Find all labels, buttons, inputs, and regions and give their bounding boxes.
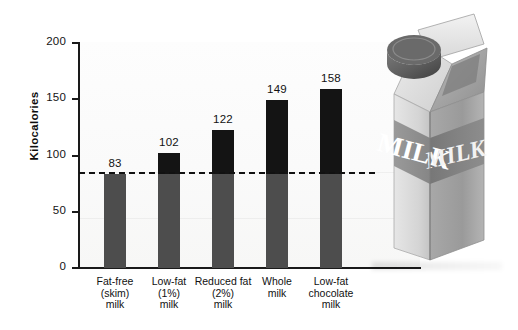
bar-segment-below-reference xyxy=(266,174,288,268)
y-tick-0 xyxy=(72,267,79,269)
bar-segment-below-reference xyxy=(158,174,180,268)
y-tick-label-100: 100 xyxy=(20,148,66,160)
milk-carton-illustration: MILK MILK xyxy=(356,8,518,280)
bar-fat-free-skim-milk[interactable] xyxy=(104,174,126,268)
bar-segment-above-reference xyxy=(212,130,234,174)
bar-segment-below-reference xyxy=(320,174,342,268)
bar-low-fat-1-milk[interactable] xyxy=(158,153,180,268)
y-tick-50 xyxy=(72,211,79,213)
bar-value-label-5: 158 xyxy=(308,72,354,84)
bar-segment-above-reference xyxy=(266,100,288,174)
y-tick-label-200: 200 xyxy=(20,35,66,47)
x-category-line: milk xyxy=(184,299,262,311)
bar-segment-above-reference xyxy=(320,89,342,174)
bar-low-fat-chocolate-milk[interactable] xyxy=(320,89,342,268)
x-category-line: milk xyxy=(292,299,370,311)
bar-value-label-3: 122 xyxy=(200,113,246,125)
y-tick-label-150: 150 xyxy=(20,91,66,103)
bar-segment-above-reference xyxy=(158,153,180,174)
x-category-label-5: Low-fat chocolate milk xyxy=(292,276,370,311)
bar-segment-below-reference xyxy=(104,174,126,268)
y-tick-200 xyxy=(72,42,79,44)
bar-value-label-4: 149 xyxy=(254,83,300,95)
y-tick-150 xyxy=(72,98,79,100)
bar-value-label-2: 102 xyxy=(146,136,192,148)
y-tick-label-50: 50 xyxy=(20,204,66,216)
bar-reduced-fat-2-milk[interactable] xyxy=(212,130,234,268)
reference-line-83 xyxy=(79,172,375,174)
bar-segment-below-reference xyxy=(212,174,234,268)
bar-value-label-1: 83 xyxy=(92,157,138,169)
chart-figure: Kilocalories 200 150 100 50 0 83 102 122… xyxy=(0,0,518,330)
y-tick-100 xyxy=(72,155,79,157)
y-axis-title: Kilocalories xyxy=(28,66,40,186)
bar-whole-milk[interactable] xyxy=(266,100,288,268)
y-tick-label-0: 0 xyxy=(20,260,66,272)
